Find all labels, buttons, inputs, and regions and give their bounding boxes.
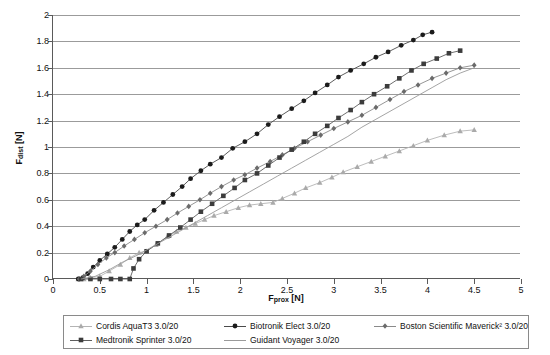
data-point	[472, 62, 477, 68]
data-point	[397, 76, 402, 81]
data-point	[361, 61, 366, 66]
data-point	[120, 237, 125, 242]
data-point	[458, 48, 463, 53]
x-tick	[334, 279, 335, 284]
y-axis-title-subscript: dist	[17, 147, 24, 159]
data-point	[348, 108, 353, 113]
x-tick	[193, 279, 194, 284]
data-point	[242, 139, 247, 144]
y-tick-label: 2	[44, 11, 49, 20]
data-point	[208, 162, 213, 167]
y-tick-label: 1	[44, 143, 49, 152]
data-point	[221, 194, 226, 199]
data-point	[472, 127, 477, 132]
legend-label: Medtronik Sprinter 3.0/20	[96, 335, 191, 345]
x-tick	[427, 279, 428, 284]
data-point	[186, 204, 191, 210]
data-point	[135, 222, 140, 227]
x-tick-label: 3.5	[374, 286, 387, 295]
x-tick	[240, 279, 241, 284]
data-point	[402, 89, 407, 95]
legend-label: Guidant Voyager 3.0/20	[250, 335, 339, 345]
data-point	[458, 65, 463, 71]
data-point	[154, 223, 159, 229]
data-point	[255, 171, 260, 176]
data-point	[127, 229, 132, 234]
data-point	[208, 190, 213, 196]
chart-root: Fdist [N] Fprox [N] 00.20.40.60.811.21.4…	[0, 0, 550, 355]
legend-label: Boston Scientific Maverick² 3.0/20	[400, 321, 528, 331]
legend-item[interactable]: Boston Scientific Maverick² 3.0/20	[374, 321, 528, 331]
data-point	[112, 250, 117, 256]
data-point	[318, 132, 323, 138]
y-tick-label: 1.2	[36, 116, 49, 125]
data-point	[292, 190, 297, 195]
data-point	[409, 68, 414, 73]
data-point	[165, 217, 170, 223]
data-point	[325, 124, 330, 129]
legend-item[interactable]: Cordis AquaT3 3.0/20	[70, 321, 178, 331]
data-point	[420, 32, 425, 37]
x-tick-label: 1	[144, 286, 149, 295]
x-tick-label: 2	[238, 286, 243, 295]
data-point	[329, 175, 334, 180]
x-tick	[521, 279, 522, 284]
x-axis-title-subscript: prox	[274, 296, 289, 303]
y-axis-title-base: F	[14, 159, 24, 165]
data-point	[266, 163, 271, 168]
data-point	[313, 132, 318, 137]
data-point	[142, 217, 147, 222]
data-point	[98, 277, 103, 282]
data-point	[325, 83, 330, 88]
series-line	[81, 51, 460, 279]
series-3	[79, 48, 463, 281]
data-point	[360, 100, 365, 105]
data-point	[142, 230, 147, 236]
data-point	[266, 122, 271, 127]
data-point	[131, 266, 136, 271]
data-point	[219, 155, 224, 160]
data-point	[198, 197, 203, 203]
y-axis-title-unit: [N]	[14, 132, 24, 147]
data-point	[243, 178, 248, 183]
data-point	[199, 209, 204, 214]
legend-item[interactable]: Guidant Voyager 3.0/20	[224, 335, 339, 345]
y-tick-label: 0.2	[36, 248, 49, 257]
series-2	[77, 62, 477, 281]
data-point	[411, 38, 416, 43]
data-point	[242, 172, 247, 178]
x-tick-label: 0.5	[94, 286, 107, 295]
data-point	[210, 201, 215, 206]
data-point	[178, 225, 183, 230]
data-point	[152, 208, 157, 213]
data-point	[374, 105, 379, 111]
legend-item[interactable]: Medtronik Sprinter 3.0/20	[70, 335, 191, 345]
data-point	[277, 114, 282, 119]
legend-label: Biotronik Elect 3.0/20	[250, 321, 330, 331]
x-tick	[147, 279, 148, 284]
y-tick-label: 1.6	[36, 63, 49, 72]
legend-marker-icon	[70, 335, 92, 345]
y-tick-label: 1.8	[36, 37, 49, 46]
y-tick-label: 0.4	[36, 222, 49, 231]
legend-item[interactable]: Biotronik Elect 3.0/20	[224, 321, 330, 331]
data-point	[170, 192, 175, 197]
data-point	[331, 126, 336, 132]
data-point	[231, 177, 236, 183]
x-tick-label: 2.5	[281, 286, 294, 295]
series-4	[81, 68, 474, 279]
data-point	[430, 76, 435, 82]
data-point	[336, 116, 341, 121]
data-point	[430, 30, 435, 35]
data-point	[386, 50, 391, 55]
data-point	[302, 139, 307, 144]
data-point	[219, 184, 224, 190]
legend-marker-icon	[70, 321, 92, 331]
series-line	[78, 32, 432, 279]
x-tick	[53, 279, 54, 284]
data-point	[434, 56, 439, 61]
data-point	[447, 51, 452, 56]
data-point	[277, 155, 282, 160]
data-point	[198, 168, 203, 173]
data-point	[127, 277, 132, 282]
